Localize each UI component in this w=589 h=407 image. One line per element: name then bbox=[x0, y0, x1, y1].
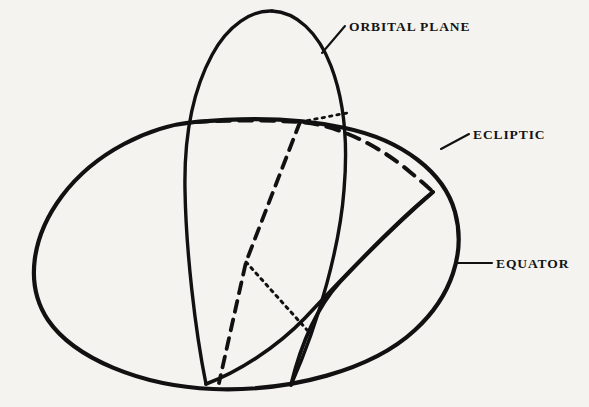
node-line-dashed bbox=[219, 122, 300, 383]
label-orbital-plane: ORBITAL PLANE bbox=[349, 19, 470, 34]
celestial-sphere-diagram: ORBITAL PLANE ECLIPTIC EQUATOR bbox=[0, 0, 589, 407]
node-line-dotted bbox=[246, 262, 308, 331]
ecliptic-leader-line bbox=[441, 134, 469, 149]
orbital-plane-left-limb bbox=[185, 11, 272, 384]
ecliptic-dashed-arc bbox=[195, 121, 433, 193]
orbital-plane-leader-line bbox=[322, 26, 345, 53]
figure-container: ORBITAL PLANE ECLIPTIC EQUATOR bbox=[0, 0, 589, 407]
label-equator: EQUATOR bbox=[496, 256, 569, 271]
node-line-dotted-upper bbox=[300, 113, 347, 122]
label-ecliptic: ECLIPTIC bbox=[473, 127, 545, 142]
ecliptic-solid-arc bbox=[291, 192, 433, 385]
